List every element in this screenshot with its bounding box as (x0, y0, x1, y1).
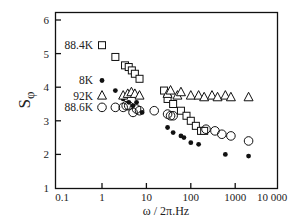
data-point (112, 53, 119, 60)
data-point (98, 91, 107, 100)
data-point (171, 130, 176, 135)
x-tick-label: 1000 (224, 191, 247, 203)
y-axis-title: Sφ (15, 92, 37, 109)
y-tick-label: 2 (44, 148, 50, 160)
data-point (111, 103, 120, 112)
data-point (100, 78, 105, 83)
y-tick-label: 1 (44, 182, 50, 194)
data-point (182, 135, 187, 140)
x-tick-label: 10 (141, 191, 153, 203)
series-labels: 88.4K8K92K88.6K (65, 39, 94, 113)
data-point (113, 88, 118, 93)
data-point (188, 140, 193, 145)
x-tick-label: 1 (99, 191, 105, 203)
data-point (186, 91, 195, 100)
series-label: 92K (73, 90, 94, 102)
x-tick-label: 0.1 (55, 191, 69, 203)
data-points (98, 42, 254, 159)
series-label: 88.4K (65, 39, 94, 51)
y-tick-label: 3 (44, 115, 50, 127)
y-tick-label: 6 (44, 14, 50, 26)
y-tick-label: 5 (44, 48, 50, 60)
y-tick-label: 4 (44, 81, 50, 93)
x-axis: 0.1110100100010 000 (55, 183, 288, 203)
data-point (244, 92, 253, 101)
data-point (170, 101, 177, 108)
data-point (134, 100, 139, 105)
data-point (227, 132, 236, 141)
data-point (218, 130, 227, 139)
x-tick-label: 100 (183, 191, 200, 203)
data-point (223, 152, 228, 157)
data-point (196, 142, 201, 147)
series-label: 88.6K (65, 101, 94, 113)
data-point (136, 75, 143, 82)
series-label: 8K (79, 74, 94, 86)
data-point (99, 42, 106, 49)
y-axis: 123456 (44, 14, 62, 194)
data-point (244, 137, 253, 146)
data-point (246, 154, 251, 159)
x-axis-title: ω / 2π.Hz (143, 204, 189, 218)
scatter-chart: 123456 0.1110100100010 000 88.4K8K92K88.… (0, 0, 304, 224)
x-tick-label: 10 000 (257, 191, 288, 203)
data-point (98, 103, 107, 112)
data-point (165, 125, 170, 130)
data-point (150, 106, 159, 115)
